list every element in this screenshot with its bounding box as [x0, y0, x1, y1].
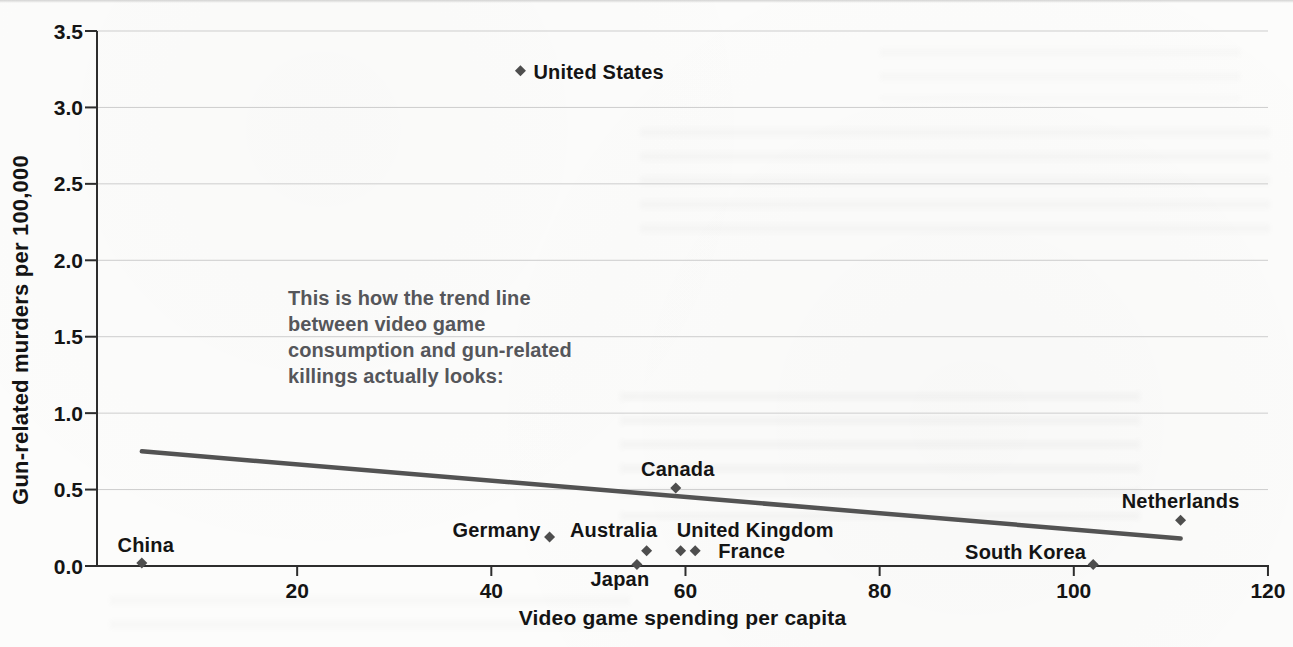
x-tick-label: 80 — [868, 579, 891, 602]
data-point-label: United Kingdom — [677, 519, 834, 541]
data-point-marker — [544, 531, 555, 542]
y-axis-title: Gun-related murders per 100,000 — [8, 155, 34, 505]
data-point-marker — [515, 65, 526, 76]
y-tick-label: 1.0 — [54, 402, 83, 425]
x-axis-title: Video game spending per capita — [97, 606, 1268, 630]
x-tick-label: 100 — [1056, 579, 1091, 602]
y-tick-label: 0.5 — [54, 478, 84, 501]
scatter-chart: 3.53.02.52.01.51.00.50.020406080100120Ch… — [0, 0, 1293, 647]
y-tick-label: 2.0 — [54, 249, 83, 272]
data-point-marker — [690, 545, 701, 556]
data-point-marker — [1088, 559, 1099, 570]
x-tick-label: 20 — [285, 579, 308, 602]
x-tick-label: 120 — [1250, 579, 1285, 602]
y-tick-label: 3.0 — [54, 96, 83, 119]
y-tick-label: 1.5 — [54, 325, 84, 348]
annotation-line: between video game — [288, 311, 572, 337]
annotation-line: This is how the trend line — [288, 285, 572, 311]
scanned-book-page: 3.53.02.52.01.51.00.50.020406080100120Ch… — [0, 0, 1293, 647]
data-point-marker — [675, 545, 686, 556]
data-point-marker — [641, 545, 652, 556]
data-point-label: France — [718, 540, 785, 562]
data-point-label: Netherlands — [1122, 490, 1240, 512]
x-tick-label: 60 — [674, 579, 697, 602]
data-point-label: Japan — [591, 568, 650, 590]
y-tick-label: 2.5 — [54, 172, 84, 195]
data-point-label: Germany — [452, 519, 541, 541]
data-point-marker — [1175, 515, 1186, 526]
data-point-label: South Korea — [965, 541, 1087, 563]
trend-line-annotation: This is how the trend line between video… — [288, 285, 572, 389]
y-tick-label: 3.5 — [54, 20, 84, 43]
x-tick-label: 40 — [480, 579, 503, 602]
data-point-label: Australia — [570, 519, 658, 541]
data-point-marker — [670, 483, 681, 494]
data-point-label: Canada — [641, 458, 715, 480]
y-tick-label: 0.0 — [54, 555, 83, 578]
annotation-line: killings actually looks: — [288, 363, 572, 389]
data-point-label: China — [118, 534, 175, 556]
annotation-line: consumption and gun-related — [288, 337, 572, 363]
data-point-label: United States — [533, 61, 663, 83]
